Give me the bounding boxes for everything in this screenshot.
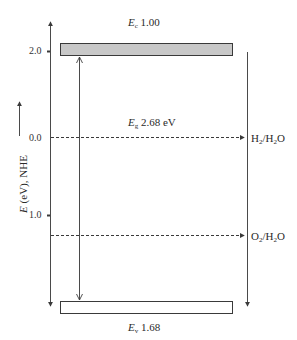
valence-band-label: Ev 1.68 (128, 321, 160, 333)
valence-band-box (61, 302, 233, 314)
band-gap-label: Eg 2.68 eV (128, 116, 176, 128)
y-axis-label: E (eV), NHE (17, 139, 29, 229)
conduction-band-label: Ec 1.00 (128, 16, 160, 28)
tick-label-0: 0.0 (29, 133, 42, 143)
h2-h2o-label: H2/H2O (251, 132, 285, 144)
conduction-band-box (61, 44, 233, 56)
tick-label-2: 2.0 (29, 46, 42, 56)
band-diagram (0, 0, 297, 340)
tick-label-1: 1.0 (29, 210, 42, 220)
o2-h2o-label: O2/H2O (251, 230, 285, 242)
